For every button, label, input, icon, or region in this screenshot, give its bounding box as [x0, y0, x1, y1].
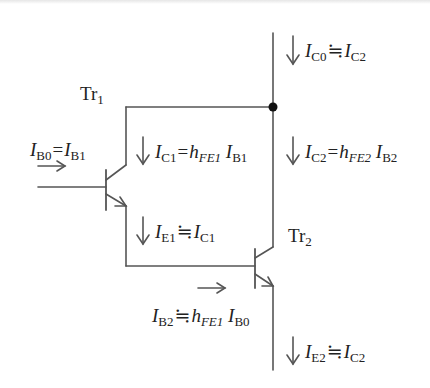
- label-ic2: IC2=hFE2 IB2: [305, 142, 397, 161]
- label-ie1: IE1≒IC1: [155, 222, 215, 241]
- label-ic0: IC0≒IC2: [305, 41, 366, 60]
- junction-dot-icon: [269, 103, 278, 112]
- label-ib2: IB2≒hFE1 IB0: [152, 306, 250, 325]
- tr1-emitter-arrow-icon: [115, 197, 126, 206]
- tr1-label: Tr1: [80, 84, 104, 103]
- tr2-label: Tr2: [288, 226, 312, 245]
- transistor-tr2-symbol: [255, 247, 273, 288]
- transistor-tr1-symbol: [38, 165, 126, 210]
- label-ib0: IB0=IB1: [30, 140, 86, 159]
- tr2-collector-lead: [255, 247, 273, 258]
- tr1-collector-lead: [106, 165, 126, 180]
- label-ie2: IE2≒IC2: [305, 342, 365, 361]
- tr1-emitter-lead: [106, 194, 126, 206]
- label-ic1: IC1=hFE1 IB1: [155, 142, 247, 161]
